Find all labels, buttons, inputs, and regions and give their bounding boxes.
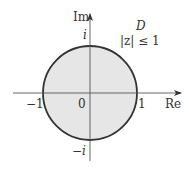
real-axis-label: Re xyxy=(165,97,181,111)
region-name: D xyxy=(135,19,146,33)
tick-origin: 0 xyxy=(78,97,86,111)
tick-neg-one: −1 xyxy=(26,97,44,111)
tick-i: i xyxy=(83,28,87,42)
tick-one: 1 xyxy=(138,97,146,111)
region-condition: |z| ≤ 1 xyxy=(120,34,160,48)
tick-neg-i: −i xyxy=(72,144,86,158)
complex-plane-diagram: Im Re −1 0 1 i −i D |z| ≤ 1 xyxy=(0,0,189,171)
imag-axis-label: Im xyxy=(73,10,90,24)
